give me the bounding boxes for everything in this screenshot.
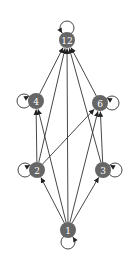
node-label: 12 (61, 36, 72, 46)
edge-1-to-6 (70, 111, 98, 222)
node-2: 2 (29, 162, 45, 178)
edge-1-to-3 (72, 177, 99, 223)
edges (36, 48, 103, 224)
node-12: 12 (59, 32, 75, 48)
node-3: 3 (95, 162, 111, 178)
edge-6-to-12 (71, 48, 96, 96)
edge-2-to-4 (36, 109, 37, 162)
node-label: 6 (97, 99, 103, 109)
node-label: 3 (100, 166, 106, 176)
node-4: 4 (28, 93, 44, 109)
node-label: 4 (33, 97, 39, 107)
node-label: 2 (34, 166, 40, 176)
edge-3-to-6 (100, 111, 102, 162)
node-6: 6 (92, 95, 108, 111)
node-1: 1 (60, 222, 76, 238)
divisor-graph: 1246231 (0, 0, 134, 269)
edge-1-to-12 (67, 48, 68, 222)
node-label: 1 (65, 226, 71, 236)
